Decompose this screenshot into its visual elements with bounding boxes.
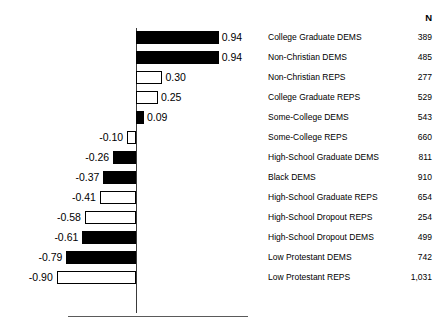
bar-value-label: 0.09 (147, 111, 167, 124)
n-value: 277 (392, 71, 432, 84)
bar (100, 191, 136, 204)
bar-value-label: 0.94 (222, 31, 242, 44)
bar-value-label: -0.26 (0, 151, 109, 164)
n-value: 1,031 (392, 271, 432, 284)
chart-row: -0.61High-School Dropout DEMS499 (0, 228, 439, 248)
bar (136, 71, 162, 84)
bar-value-label: -0.41 (0, 191, 96, 204)
bar (103, 171, 136, 184)
baseline-rule (68, 316, 248, 317)
n-value: 811 (392, 151, 432, 164)
plot-area: 0.94College Graduate DEMS3890.94Non-Chri… (0, 28, 439, 310)
chart-row: -0.37Black DEMS910 (0, 168, 439, 188)
n-value: 654 (392, 191, 432, 204)
chart-row: 0.30Non-Christian REPS277 (0, 68, 439, 88)
bar-value-label: 0.25 (161, 91, 181, 104)
bar (136, 111, 144, 124)
chart-row: 0.94College Graduate DEMS389 (0, 28, 439, 48)
chart-row: 0.09Some-College DEMS543 (0, 108, 439, 128)
n-value: 254 (392, 211, 432, 224)
bar-value-label: -0.37 (0, 171, 99, 184)
bar-value-label: -0.10 (0, 131, 123, 144)
chart-row: -0.41High-School Graduate REPS654 (0, 188, 439, 208)
bar-value-label: -0.90 (0, 271, 53, 284)
bar-chart: N 0.94College Graduate DEMS3890.94Non-Ch… (0, 0, 439, 331)
chart-row: -0.10Some-College REPS660 (0, 128, 439, 148)
chart-row: -0.90Low Protestant REPS1,031 (0, 268, 439, 288)
chart-row: 0.25College Graduate REPS529 (0, 88, 439, 108)
n-value: 742 (392, 251, 432, 264)
chart-row: -0.26High-School Graduate DEMS811 (0, 148, 439, 168)
bar (127, 131, 136, 144)
bar-value-label: -0.79 (0, 251, 62, 264)
bar-value-label: 0.94 (222, 51, 242, 64)
bar (82, 231, 136, 244)
n-value: 660 (392, 131, 432, 144)
n-value: 529 (392, 91, 432, 104)
bar-value-label: -0.61 (0, 231, 78, 244)
bar (136, 51, 219, 64)
bar (66, 251, 136, 264)
bar (136, 91, 158, 104)
n-value: 910 (392, 171, 432, 184)
bar (57, 271, 136, 284)
n-value: 485 (392, 51, 432, 64)
bar (136, 31, 219, 44)
chart-row: 0.94Non-Christian DEMS485 (0, 48, 439, 68)
chart-row: -0.58High-School Dropout REPS254 (0, 208, 439, 228)
bar (85, 211, 136, 224)
n-value: 543 (392, 111, 432, 124)
chart-row: -0.79Low Protestant DEMS742 (0, 248, 439, 268)
n-value: 389 (392, 31, 432, 44)
bar-value-label: -0.58 (0, 211, 81, 224)
bar-value-label: 0.30 (165, 71, 185, 84)
n-value: 499 (392, 231, 432, 244)
bar (113, 151, 136, 164)
n-column-header: N (392, 12, 432, 23)
